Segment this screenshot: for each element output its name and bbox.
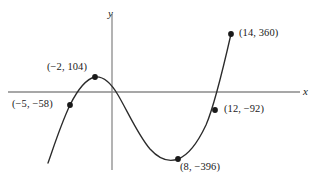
data-point-label: (8, −396): [180, 162, 220, 173]
graph-figure: y x (−5, −58)(−2, 104)(8, −396)(12, −92)…: [0, 0, 318, 181]
data-point-label: (−5, −58): [12, 99, 53, 110]
data-point: [212, 107, 218, 113]
cubic-curve: [48, 34, 231, 163]
data-point: [228, 31, 234, 37]
y-axis-label: y: [108, 8, 113, 19]
data-point-label: (−2, 104): [47, 62, 87, 73]
x-axis-label: x: [303, 86, 308, 97]
data-point-group: [67, 31, 234, 162]
data-point: [67, 102, 73, 108]
data-point-label: (14, 360): [239, 28, 278, 39]
data-point-label: (12, −92): [224, 104, 264, 115]
data-point: [92, 74, 98, 80]
